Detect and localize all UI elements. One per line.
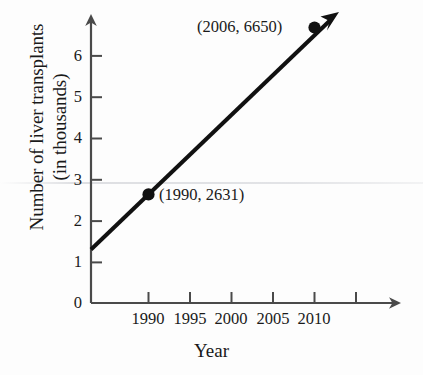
point-annotation-2006: (2006, 6650)	[197, 17, 282, 37]
point-annotation-1990: (1990, 2631)	[159, 185, 244, 205]
data-point-2006	[308, 21, 320, 33]
y-tick-label-4: 4	[62, 128, 82, 148]
chart-figure: Number of liver transplants (in thousand…	[0, 0, 423, 375]
y-tick-label-6: 6	[62, 46, 82, 66]
trend-line-series	[91, 12, 339, 250]
y-tick-label-1: 1	[62, 252, 82, 272]
x-tick-marks	[149, 292, 357, 303]
data-point-1990	[142, 188, 154, 200]
y-tick-marks	[91, 56, 102, 263]
x-axis	[91, 297, 401, 309]
x-axis-title: Year	[0, 340, 423, 362]
y-tick-label-2: 2	[62, 211, 82, 231]
y-axis	[85, 14, 97, 303]
y-tick-label-5: 5	[62, 87, 82, 107]
x-tick-label-2010: 2010	[288, 309, 340, 329]
y-tick-label-0: 0	[62, 293, 82, 313]
y-axis-title-line1: Number of liver transplants	[25, 24, 48, 231]
y-tick-label-3: 3	[62, 170, 82, 190]
